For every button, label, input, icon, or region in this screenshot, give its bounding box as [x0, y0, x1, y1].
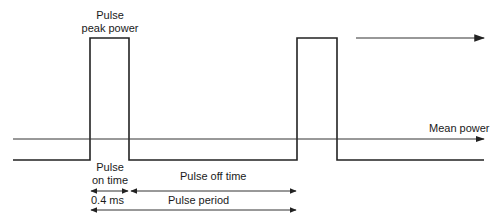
off-time-label: Pulse off time — [180, 170, 246, 183]
peak-power-label: Pulse peak power — [78, 9, 142, 35]
mean-power-label: Mean power — [429, 122, 490, 135]
period-label: Pulse period — [168, 194, 229, 207]
pulse-waveform-line — [13, 38, 484, 160]
on-time-label-line1: Pulse — [88, 161, 132, 174]
on-time-label-line2: on time — [88, 174, 132, 187]
peak-power-label-line1: Pulse — [78, 9, 142, 22]
peak-power-label-line2: peak power — [78, 22, 142, 35]
pulse-waveform-diagram — [0, 0, 497, 223]
on-time-value-label: 0.4 ms — [91, 194, 124, 207]
on-time-label: Pulse on time — [88, 161, 132, 187]
